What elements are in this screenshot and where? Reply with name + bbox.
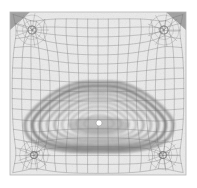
figure-root: Adaptive quadrilateral mesh with nested … [0,0,197,188]
mesh-contour-figure [0,0,197,188]
center-marker [96,120,102,126]
